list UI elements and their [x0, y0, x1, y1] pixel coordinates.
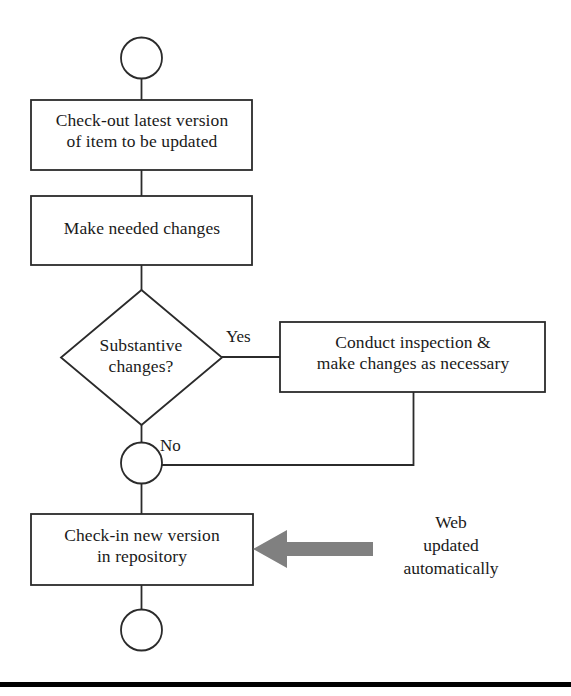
process-box-checkout [31, 100, 252, 170]
flowchart-diagram: Check-out latest version of item to be u… [0, 0, 571, 696]
decision-diamond-substantive-changes [61, 290, 222, 425]
annotation-web-updated-automatically: Web updated automatically [386, 511, 516, 579]
merge-circle [121, 443, 162, 484]
process-box-make-changes [31, 196, 252, 265]
edge-label-yes: Yes [226, 328, 251, 347]
gray-block-arrow-icon [253, 530, 373, 568]
process-box-conduct-inspection [280, 322, 545, 392]
edge-label-no: No [160, 437, 181, 456]
start-circle [121, 38, 162, 79]
end-circle [121, 610, 162, 651]
bottom-rule [0, 682, 571, 687]
flowchart-canvas [0, 0, 571, 696]
connector-conduct-to-merge [162, 392, 414, 465]
process-box-checkin [31, 514, 253, 585]
